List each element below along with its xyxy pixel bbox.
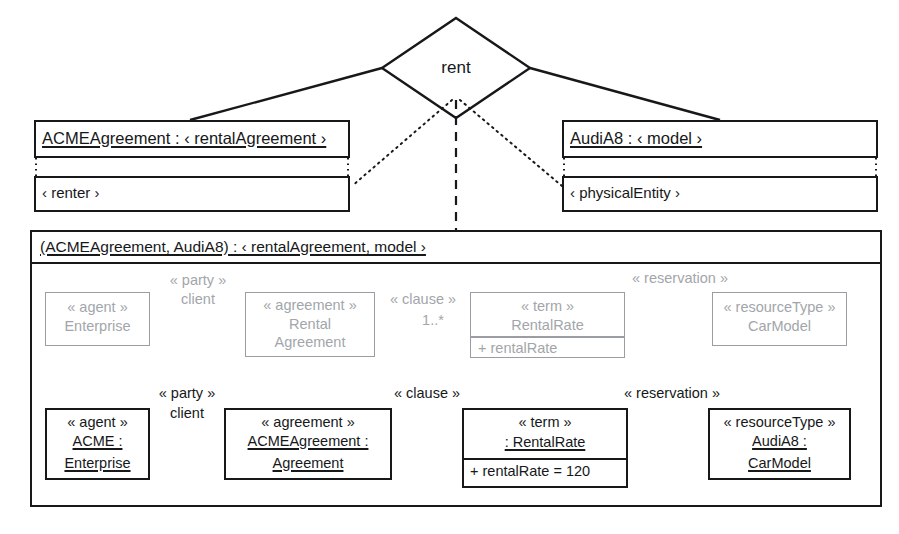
instance-acme-enterprise-name-line1: ACME :: [45, 433, 150, 449]
rent-role-physical-dotted: [460, 100, 562, 186]
instance-rental-rate-attribute: + rentalRate = 120: [470, 463, 630, 479]
instance-acme-agreement-name-line2: Agreement: [224, 455, 392, 471]
acme-agreement-object-role: ‹ renter ›: [42, 185, 342, 202]
audia8-object-role: ‹ physicalEntity ›: [570, 185, 870, 202]
audia8-object-name: AudiA8 : ‹ model ›: [570, 129, 874, 147]
instance-acme-agreement-name-line1: ACMEAgreement :: [224, 433, 392, 449]
pattern-rental-rate-attr-divider: [471, 336, 624, 338]
pattern-party-client-label-line2: client: [150, 291, 246, 307]
instance-party-client-label-line2: client: [137, 405, 237, 421]
pattern-rental-rate-stereotype: « term »: [470, 298, 625, 314]
pattern-reservation-label: « reservation »: [600, 270, 760, 286]
instance-rental-rate-stereotype: « term »: [462, 414, 628, 430]
pattern-clause-label: « clause »: [376, 291, 470, 307]
collaboration-container-title: (ACMEAgreement, AudiA8) : ‹ rentalAgreem…: [40, 238, 640, 255]
instance-audia8-carmodel-name-line2: CarModel: [708, 455, 851, 471]
pattern-car-model-name: CarModel: [712, 318, 847, 334]
rent-to-audia8-line: [530, 68, 720, 120]
pattern-enterprise-stereotype: « agent »: [45, 299, 150, 315]
instance-audia8-carmodel-name-line1: AudiA8 :: [708, 433, 851, 449]
rent-association-label: rent: [406, 58, 506, 77]
instance-acme-enterprise-stereotype: « agent »: [45, 414, 150, 430]
instance-rental-rate-attr-divider: [464, 458, 626, 460]
pattern-rental-agreement-stereotype: « agreement »: [245, 297, 375, 313]
pattern-party-client-label-line1: « party »: [150, 272, 246, 288]
pattern-rental-agreement-name-line1: Rental: [245, 316, 375, 332]
pattern-clause-multiplicity: 1..*: [396, 312, 470, 328]
rent-to-acme-line: [190, 68, 382, 120]
pattern-rental-rate-name: RentalRate: [470, 317, 625, 333]
instance-audia8-carmodel-stereotype: « resourceType »: [706, 414, 853, 430]
pattern-enterprise-name: Enterprise: [45, 318, 150, 334]
pattern-rental-rate-attribute: + rentalRate: [478, 340, 628, 356]
pattern-rental-agreement-name-line2: Agreement: [245, 334, 375, 350]
instance-reservation-label: « reservation »: [598, 385, 746, 401]
instance-clause-label: « clause »: [372, 385, 482, 401]
rent-role-renter-dotted: [352, 100, 452, 186]
pattern-car-model-stereotype: « resourceType »: [712, 299, 847, 315]
acme-agreement-object-name: ACMEAgreement : ‹ rentalAgreement ›: [42, 129, 346, 147]
instance-rental-rate-name: : RentalRate: [462, 434, 628, 450]
instance-party-client-label-line1: « party »: [137, 385, 237, 401]
container-header-divider: [32, 262, 880, 264]
instance-acme-enterprise-name-line2: Enterprise: [45, 455, 150, 471]
diagram-canvas: rent ACMEAgreement : ‹ rentalAgreement ›…: [0, 0, 899, 534]
instance-acme-agreement-stereotype: « agreement »: [224, 414, 392, 430]
